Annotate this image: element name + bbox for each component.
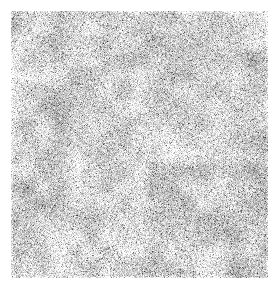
image-viewport (0, 0, 280, 290)
noise-texture-field (11, 11, 268, 278)
